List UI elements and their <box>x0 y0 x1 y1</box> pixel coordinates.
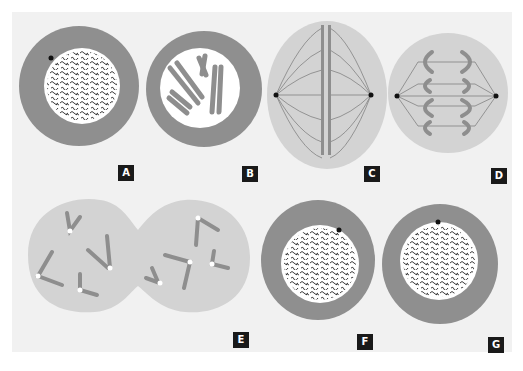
cell-c <box>267 21 387 169</box>
panel-label-a: A <box>118 165 134 181</box>
centrosome-icon <box>337 228 342 233</box>
centrosome-icon <box>436 220 441 225</box>
cell-f <box>261 200 375 320</box>
panel-label-d: D <box>491 168 507 184</box>
cell-e <box>28 199 250 312</box>
cell-a <box>19 26 139 146</box>
panel-label-c: C <box>364 166 380 182</box>
mitosis-diagram <box>0 0 523 371</box>
panel-label-g: G <box>488 337 504 353</box>
panel-label-e: E <box>233 332 249 348</box>
cell-d <box>388 33 508 153</box>
cell-b <box>146 31 262 147</box>
panel-label-b: B <box>242 166 258 182</box>
cell-g <box>382 204 498 324</box>
centrosome-icon <box>49 56 54 61</box>
panel-label-f: F <box>357 334 373 350</box>
